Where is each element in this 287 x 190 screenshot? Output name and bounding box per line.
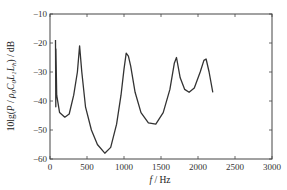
- x-tick-label: 2000: [189, 162, 208, 172]
- line-chart: 050010001500200025003000 −10−20−30−40−50…: [0, 0, 287, 190]
- y-tick-labels: −10−20−30−40−50−60: [33, 9, 48, 164]
- y-tick-label: −20: [33, 38, 48, 48]
- y-tick-label: −40: [33, 96, 48, 106]
- x-tick-label: 500: [80, 162, 94, 172]
- y-tick-label: −30: [33, 67, 48, 77]
- y-tick-label: −10: [33, 9, 48, 19]
- series-line: [56, 40, 213, 153]
- x-tick-labels: 050010001500200025003000: [48, 162, 282, 172]
- data-series: [56, 40, 213, 153]
- x-tick-label: 0: [48, 162, 53, 172]
- x-tick-label: 2500: [226, 162, 245, 172]
- x-tick-label: 1000: [115, 162, 134, 172]
- x-tick-label: 1500: [152, 162, 171, 172]
- y-tick-label: −50: [33, 125, 48, 135]
- x-axis-label: f / Hz: [149, 175, 170, 185]
- x-tick-label: 3000: [263, 162, 282, 172]
- y-axis-label: 10lg(P / ρ0C0L1Lh) / dB: [6, 41, 18, 131]
- y-tick-label: −60: [33, 154, 48, 164]
